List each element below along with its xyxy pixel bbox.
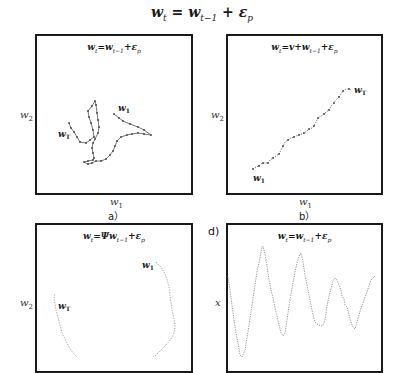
panel-c-end-label: wT (58, 301, 71, 312)
panel-c-start-label: w1 (142, 260, 154, 271)
panel-b-start-label: w1 (253, 173, 265, 184)
panel-a-path: w1 wT (58, 101, 151, 164)
panel-d-path (228, 246, 375, 357)
panel-b-path: w1 wT (252, 85, 367, 184)
panel-a-end-label: wT (58, 129, 71, 140)
panel-b-end-label: wT (354, 85, 367, 96)
panel-a-start-label: w1 (118, 103, 130, 114)
panel-c-path: w1 wT (54, 260, 175, 357)
